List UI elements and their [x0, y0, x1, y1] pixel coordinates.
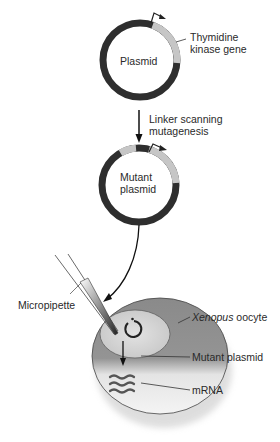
- down-arrow-icon: [136, 110, 143, 143]
- mutant-plasmid-label-line1: Mutant: [120, 171, 156, 183]
- step-label-line1: Linker scanning: [149, 113, 223, 125]
- plasmid-label: Plasmid: [120, 55, 157, 67]
- step-label: Linker scanning mutagenesis: [149, 113, 223, 137]
- step-label-line2: mutagenesis: [149, 125, 223, 137]
- oocyte-label: Xenopus oocyte: [192, 311, 267, 323]
- mutant-plasmid-label: Mutant plasmid: [120, 171, 156, 195]
- oocyte-label-italic: Xenopus: [192, 311, 233, 323]
- promoter-arrow-icon: [151, 13, 166, 23]
- curved-arrow-icon: [103, 225, 139, 302]
- mutant-plasmid-label-line2: plasmid: [120, 183, 156, 195]
- micropipette-label: Micropipette: [18, 299, 75, 311]
- oocyte-label-rest: oocyte: [233, 311, 267, 323]
- nucleus: [100, 310, 170, 358]
- gene-leader-line: [176, 39, 186, 42]
- gene-label-line2: kinase gene: [190, 43, 247, 55]
- gene-label: Thymidine kinase gene: [190, 31, 247, 55]
- gene-label-line1: Thymidine: [190, 31, 247, 43]
- micropipette-leader-line: [70, 283, 81, 294]
- mrna-label: mRNA: [192, 384, 223, 396]
- nucleus-plasmid-label: Mutant plasmid: [192, 351, 263, 363]
